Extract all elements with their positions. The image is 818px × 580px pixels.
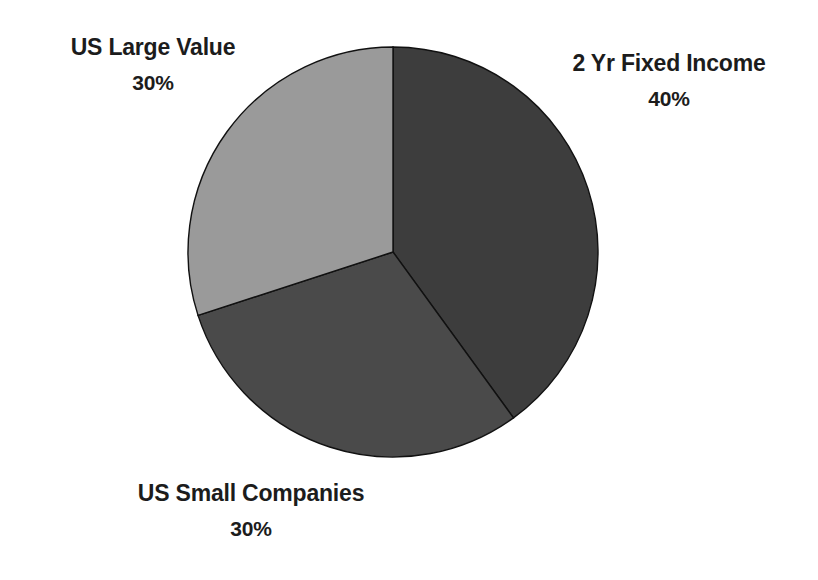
slice-value-2-yr-fixed-income: 40% xyxy=(530,88,808,109)
slice-label-us-small-companies: US Small Companies xyxy=(98,482,404,505)
slice-value-us-large-value: 30% xyxy=(18,72,288,93)
slice-label-us-large-value: US Large Value xyxy=(18,36,288,59)
slice-callout-us-small-companies: US Small Companies 30% xyxy=(98,482,404,539)
slice-callout-2-yr-fixed-income: 2 Yr Fixed Income 40% xyxy=(530,52,808,109)
slice-label-2-yr-fixed-income: 2 Yr Fixed Income xyxy=(530,52,808,75)
slice-callout-us-large-value: US Large Value 30% xyxy=(18,36,288,93)
slice-value-us-small-companies: 30% xyxy=(98,518,404,539)
pie-chart-figure: US Large Value 30% 2 Yr Fixed Income 40%… xyxy=(0,0,818,580)
